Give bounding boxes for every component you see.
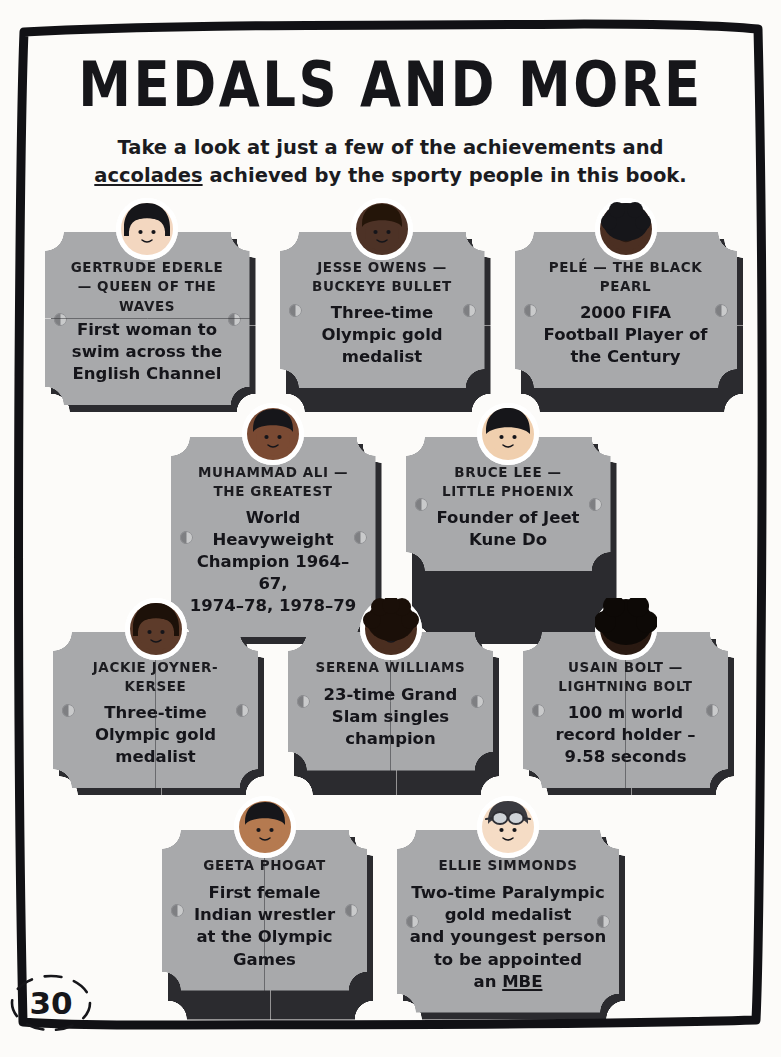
subtitle-line-2-rest: achieved by the sporty people in this bo… bbox=[203, 164, 687, 187]
plaque-desc-line: First woman to bbox=[57, 319, 238, 341]
screw-icon bbox=[354, 531, 367, 544]
avatar-bruce-lee bbox=[477, 403, 539, 465]
plaque-name-line: JACKIE JOYNER- bbox=[65, 658, 246, 677]
plaque-desc-line: Slam singles bbox=[300, 706, 481, 728]
plaque-card[interactable]: JACKIE JOYNER-KERSEEThree-timeOlympic go… bbox=[53, 632, 258, 788]
screw-icon bbox=[589, 498, 602, 511]
plaque-name-line: ELLIE SIMMONDS bbox=[409, 856, 607, 875]
screw-icon bbox=[54, 313, 67, 326]
plaque-card[interactable]: GEETA PHOGATFirst femaleIndian wrestlera… bbox=[162, 830, 367, 1013]
plaque-desc-line: First female bbox=[174, 882, 355, 904]
plaque-desc-line: World bbox=[183, 507, 364, 529]
screw-icon bbox=[715, 304, 728, 317]
plaque-desc-line: 23-time Grand bbox=[300, 684, 481, 706]
plaque-person-name: JACKIE JOYNER-KERSEE bbox=[65, 658, 246, 696]
plaque-desc-line: Olympic gold bbox=[292, 324, 473, 346]
plaque-card[interactable]: USAIN BOLT —LIGHTNING BOLT100 m worldrec… bbox=[523, 632, 728, 788]
plaque-person-name: PELÉ — THE BLACKPEARL bbox=[527, 258, 725, 296]
plaque-person-name: SERENA WILLIAMS bbox=[300, 658, 481, 677]
plaque-achievement: Three-timeOlympic goldmedalist bbox=[292, 302, 473, 368]
avatar-gertrude-ederle bbox=[116, 198, 178, 260]
plaque-person-name: ELLIE SIMMONDS bbox=[409, 856, 607, 875]
plaque-name-line: USAIN BOLT — bbox=[535, 658, 716, 677]
avatar-serena-williams bbox=[360, 598, 422, 660]
plaque-name-line: SERENA WILLIAMS bbox=[300, 658, 481, 677]
plaque-desc-line: Two-time Paralympic bbox=[409, 882, 607, 904]
plaque-achievement: First woman toswim across theEnglish Cha… bbox=[57, 319, 238, 385]
plaque-card[interactable]: GERTRUDE EDERLE— QUEEN OF THEWAVESFirst … bbox=[45, 232, 250, 405]
subtitle-line-1: Take a look at just a few of the achieve… bbox=[0, 134, 781, 162]
plaque-person-name: USAIN BOLT —LIGHTNING BOLT bbox=[535, 658, 716, 696]
header-block: MEDALS AND MORE Take a look at just a fe… bbox=[0, 52, 781, 190]
plaque-card[interactable]: PELÉ — THE BLACKPEARL2000 FIFAFootball P… bbox=[515, 232, 737, 405]
screw-icon bbox=[524, 304, 537, 317]
screw-icon bbox=[532, 704, 545, 717]
accolades-term: accolades bbox=[94, 164, 202, 187]
plaque-row-1: GERTRUDE EDERLE— QUEEN OF THEWAVESFirst … bbox=[0, 232, 781, 405]
plaque-name-line: LIGHTNING BOLT bbox=[535, 677, 716, 696]
plaque-desc-line: and youngest person bbox=[409, 926, 607, 948]
avatar-geeta-phogat bbox=[234, 796, 296, 858]
plaque-desc-line: Kune Do bbox=[418, 529, 599, 551]
plaque-achievement: First femaleIndian wrestlerat the Olympi… bbox=[174, 882, 355, 970]
plaque-name-line: MUHAMMAD ALI — bbox=[183, 463, 364, 482]
plaque-desc-line: medalist bbox=[65, 746, 246, 768]
plaque-achievement: Three-timeOlympic goldmedalist bbox=[65, 702, 246, 768]
screw-icon bbox=[289, 304, 302, 317]
plaque-desc-line: Games bbox=[174, 949, 355, 971]
screw-icon bbox=[236, 704, 249, 717]
subtitle-line-2: accolades achieved by the sporty people … bbox=[0, 162, 781, 190]
plaque-name-line: PEARL bbox=[527, 277, 725, 296]
avatar-pele bbox=[595, 198, 657, 260]
plaque-desc-line: 100 m world bbox=[535, 702, 716, 724]
plaque-name-line: BUCKEYE BULLET bbox=[292, 277, 473, 296]
plaque-desc-prefix: an bbox=[474, 972, 503, 991]
avatar-muhammad-ali bbox=[242, 403, 304, 465]
plaque-card[interactable]: BRUCE LEE —LITTLE PHOENIXFounder of Jeet… bbox=[406, 437, 611, 637]
plaque-person-name: GEETA PHOGAT bbox=[174, 856, 355, 875]
plaque-card[interactable]: JESSE OWENS —BUCKEYE BULLETThree-timeOly… bbox=[280, 232, 485, 405]
plaque-name-line: GEETA PHOGAT bbox=[174, 856, 355, 875]
plaque-name-line: PELÉ — THE BLACK bbox=[527, 258, 725, 277]
plaque-desc-line: swim across the bbox=[57, 341, 238, 363]
plaque-achievement: Founder of JeetKune Do bbox=[418, 507, 599, 551]
plaque-achievement: WorldHeavyweightChampion 1964–67,1974–78… bbox=[183, 507, 364, 618]
screw-icon bbox=[706, 704, 719, 717]
screw-icon bbox=[415, 498, 428, 511]
plaque-person-name: MUHAMMAD ALI —THE GREATEST bbox=[183, 463, 364, 501]
plaque-desc-line: Champion 1964–67, bbox=[183, 551, 364, 595]
plaque-desc-line-final: an MBE bbox=[409, 971, 607, 993]
plaque-person-name: JESSE OWENS —BUCKEYE BULLET bbox=[292, 258, 473, 296]
plaque-card[interactable]: MUHAMMAD ALI —THE GREATESTWorldHeavyweig… bbox=[171, 437, 376, 637]
plaque-name-line: KERSEE bbox=[65, 677, 246, 696]
plaque-desc-line: record holder – bbox=[535, 724, 716, 746]
screw-icon bbox=[471, 695, 484, 708]
plaque-desc-line: to be appointed bbox=[409, 949, 607, 971]
plaque-desc-line: Indian wrestler bbox=[174, 904, 355, 926]
plaque-name-line: — QUEEN OF THE bbox=[57, 277, 238, 296]
plaque-achievement: 23-time GrandSlam singleschampion bbox=[300, 684, 481, 750]
plaque-name-line: BRUCE LEE — bbox=[418, 463, 599, 482]
screw-icon bbox=[228, 313, 241, 326]
avatar-ellie-simmonds bbox=[477, 796, 539, 858]
plaque-name-line: THE GREATEST bbox=[183, 482, 364, 501]
plaque-person-name: GERTRUDE EDERLE— QUEEN OF THEWAVES bbox=[57, 258, 238, 315]
plaque-desc-line: at the Olympic bbox=[174, 926, 355, 948]
page-number: 30 bbox=[8, 972, 94, 1034]
page-title: MEDALS AND MORE bbox=[0, 52, 781, 118]
plaque-desc-line: the Century bbox=[527, 346, 725, 368]
plaque-desc-line: Three-time bbox=[292, 302, 473, 324]
plaque-name-line: WAVES bbox=[57, 296, 238, 315]
plaque-desc-line: medalist bbox=[292, 346, 473, 368]
plaque-name-line: LITTLE PHOENIX bbox=[418, 482, 599, 501]
plaque-name-line: JESSE OWENS — bbox=[292, 258, 473, 277]
screw-icon bbox=[62, 704, 75, 717]
plaque-face[interactable]: MUHAMMAD ALI —THE GREATESTWorldHeavyweig… bbox=[171, 437, 376, 637]
screw-icon bbox=[345, 904, 358, 917]
page-number-text: 30 bbox=[8, 972, 94, 1034]
plaque-desc-line: Three-time bbox=[65, 702, 246, 724]
plaque-card[interactable]: SERENA WILLIAMS23-time GrandSlam singles… bbox=[288, 632, 493, 788]
plaque-desc-line: gold medalist bbox=[409, 904, 607, 926]
screw-icon bbox=[180, 531, 193, 544]
plaque-card[interactable]: ELLIE SIMMONDSTwo-time Paralympicgold me… bbox=[397, 830, 619, 1013]
